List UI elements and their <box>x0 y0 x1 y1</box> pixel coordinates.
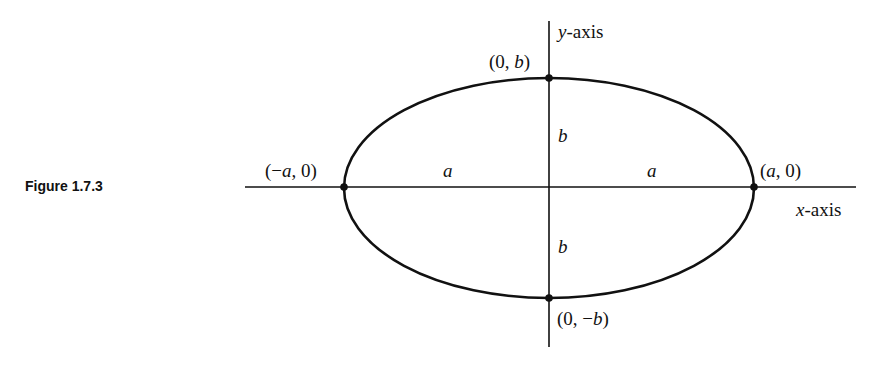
segment-label-right-a: a <box>647 160 657 181</box>
point-label-left: (−a, 0) <box>265 160 317 182</box>
vertex-bottom-dot <box>545 294 553 302</box>
vertex-right-dot <box>750 183 758 191</box>
segment-label-lower-b: b <box>558 236 568 257</box>
point-label-top: (0, b) <box>489 51 530 73</box>
segment-label-left-a: a <box>443 160 453 181</box>
vertex-top-dot <box>545 74 553 82</box>
vertex-left-dot <box>340 183 348 191</box>
point-label-bottom: (0, −b) <box>557 308 609 330</box>
segment-label-upper-b: b <box>558 125 568 146</box>
ellipse-diagram: y-axis x-axis (0, b) (0, −b) (−a, 0) (a,… <box>0 0 879 365</box>
x-axis-label: x-axis <box>795 199 841 220</box>
point-label-right: (a, 0) <box>760 160 801 182</box>
y-axis-label: y-axis <box>556 21 603 42</box>
